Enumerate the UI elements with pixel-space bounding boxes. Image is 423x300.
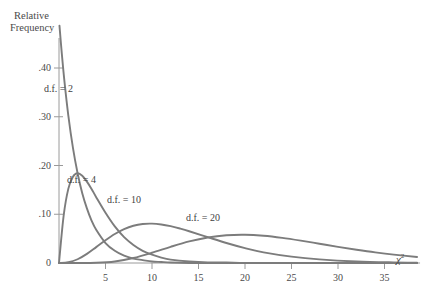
chart-figure: Relative Frequency .40.30.20.100 5101520… — [0, 0, 423, 300]
x-axis-symbol-exponent: 2 — [401, 252, 405, 260]
y-tick-label: .40 — [25, 62, 51, 73]
chart-canvas — [0, 0, 423, 300]
y-tick-label: .20 — [25, 160, 51, 171]
curve-annotation-0: d.f. = 2 — [44, 83, 73, 94]
x-tick-label: 5 — [94, 272, 118, 283]
x-tick-label: 35 — [373, 272, 397, 283]
y-tick-label: .30 — [25, 111, 51, 122]
curve-annotation-1: d.f. = 4 — [67, 174, 96, 185]
x-axis-symbol: χ2 — [396, 252, 404, 265]
curve-group — [59, 26, 417, 263]
y-tick-label: 0 — [25, 257, 51, 268]
curve-df-10 — [59, 224, 417, 263]
y-axis-title-line1: Relative — [14, 10, 49, 23]
x-tick-label: 25 — [280, 272, 304, 283]
curve-annotation-2: d.f. = 10 — [107, 194, 141, 205]
curve-annotation-3: d.f. = 20 — [186, 212, 220, 223]
x-tick-label: 15 — [187, 272, 211, 283]
y-axis-title-line2: Frequency — [10, 22, 54, 35]
x-tick-label: 10 — [140, 272, 164, 283]
curve-df-2 — [59, 26, 417, 263]
y-tick-label: .10 — [25, 208, 51, 219]
x-tick-label: 30 — [326, 272, 350, 283]
x-tick-label: 20 — [233, 272, 257, 283]
